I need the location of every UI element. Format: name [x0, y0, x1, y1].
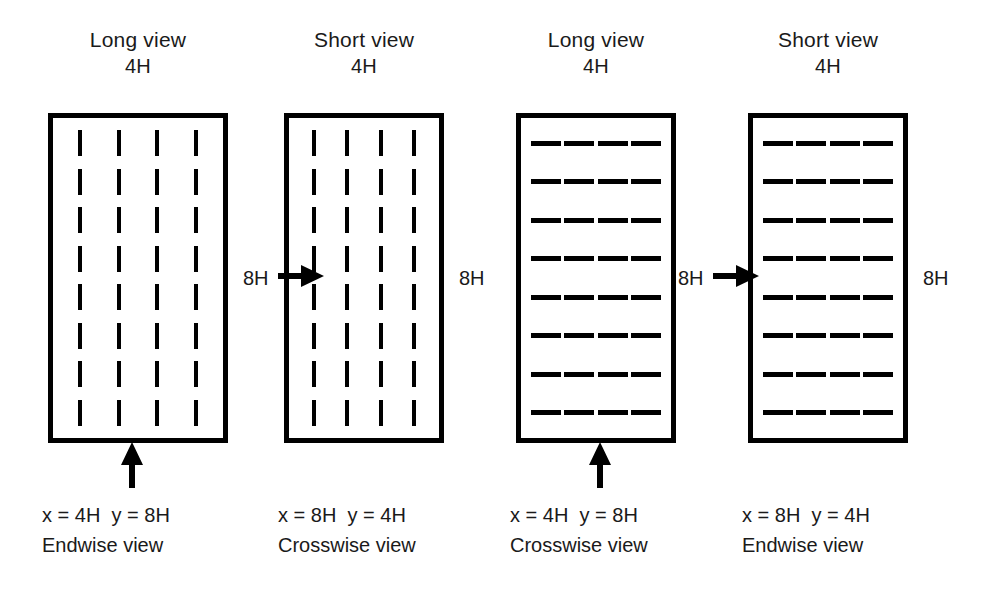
horizontal-dash-icon [796, 179, 826, 184]
dash-cell [331, 355, 365, 394]
dash-cell [297, 124, 331, 163]
vertical-dash-icon [412, 323, 416, 349]
dash-cell [364, 201, 398, 240]
dash-cell [61, 240, 100, 279]
horizontal-dash-icon [863, 256, 893, 261]
horizontal-dash-icon [763, 295, 793, 300]
dash-cell [331, 394, 365, 433]
dash-cell [398, 240, 432, 279]
horizontal-dash-icon [631, 218, 661, 223]
dash-cell [761, 355, 795, 394]
vertical-dash-icon [379, 400, 383, 426]
horizontal-dash-icon [830, 218, 860, 223]
horizontal-dash-icon [598, 295, 628, 300]
horizontal-dash-icon [598, 333, 628, 338]
vertical-dash-icon [117, 207, 121, 233]
horizontal-dash-icon [631, 410, 661, 415]
vertical-dash-icon [78, 207, 82, 233]
dash-cell [795, 240, 829, 279]
dash-cell [795, 355, 829, 394]
dash-cell [398, 317, 432, 356]
vertical-dash-icon [194, 361, 198, 387]
vertical-dash-icon [194, 207, 198, 233]
horizontal-dash-icon [564, 256, 594, 261]
dash-cell [529, 394, 563, 433]
dash-cell [138, 317, 177, 356]
dash-cell [364, 394, 398, 433]
vertical-dash-icon [379, 284, 383, 310]
horizontal-dash-icon [796, 256, 826, 261]
dash-cell [563, 240, 597, 279]
dash-cell [138, 240, 177, 279]
dash-cell [138, 278, 177, 317]
horizontal-dash-icon [564, 179, 594, 184]
horizontal-dash-icon [830, 179, 860, 184]
dash-cell [596, 124, 630, 163]
vertical-dash-icon [412, 169, 416, 195]
dash-cell [563, 355, 597, 394]
horizontal-dash-icon [863, 372, 893, 377]
dash-cell [862, 124, 896, 163]
dash-cell [331, 278, 365, 317]
arrow-right-panel-2 [277, 260, 325, 292]
panel-1-caption-line1: x = 4H y = 8H [42, 504, 170, 526]
panel-3-caption: x = 4H y = 8H Crosswise view [510, 500, 770, 560]
dash-cell [563, 163, 597, 202]
panel-3-dash-grid [521, 118, 671, 438]
dash-cell [297, 163, 331, 202]
horizontal-dash-icon [598, 218, 628, 223]
horizontal-dash-icon [598, 141, 628, 146]
dash-cell [61, 355, 100, 394]
horizontal-dash-icon [531, 372, 561, 377]
dash-cell [138, 394, 177, 433]
panel-4-caption: x = 8H y = 4H Endwise view [742, 500, 992, 560]
dash-cell [862, 317, 896, 356]
horizontal-dash-icon [763, 256, 793, 261]
dash-cell [297, 394, 331, 433]
arrow-up-panel-1 [116, 441, 148, 489]
dash-cell [795, 394, 829, 433]
dash-cell [61, 163, 100, 202]
dash-cell [61, 124, 100, 163]
vertical-dash-icon [155, 400, 159, 426]
vertical-dash-icon [155, 169, 159, 195]
dash-cell [630, 163, 664, 202]
vertical-dash-icon [345, 246, 349, 272]
panel-2-caption-line1: x = 8H y = 4H [278, 504, 406, 526]
horizontal-dash-icon [796, 218, 826, 223]
dash-cell [630, 124, 664, 163]
horizontal-dash-icon [763, 333, 793, 338]
vertical-dash-icon [379, 130, 383, 156]
vertical-dash-icon [312, 361, 316, 387]
horizontal-dash-icon [531, 295, 561, 300]
dash-cell [364, 163, 398, 202]
vertical-dash-icon [78, 246, 82, 272]
panel-2-caption: x = 8H y = 4H Crosswise view [278, 500, 538, 560]
dash-cell [596, 240, 630, 279]
dash-cell [862, 394, 896, 433]
dash-cell [177, 124, 216, 163]
dash-cell [596, 317, 630, 356]
vertical-dash-icon [412, 207, 416, 233]
vertical-dash-icon [155, 284, 159, 310]
dash-cell [100, 240, 139, 279]
vertical-dash-icon [155, 207, 159, 233]
dash-cell [100, 317, 139, 356]
dash-cell [364, 355, 398, 394]
dimension-label-panel2-left: 8H [243, 268, 269, 288]
horizontal-dash-icon [564, 295, 594, 300]
horizontal-dash-icon [598, 410, 628, 415]
vertical-dash-icon [117, 400, 121, 426]
dash-cell [177, 317, 216, 356]
vertical-dash-icon [412, 130, 416, 156]
dash-cell [331, 201, 365, 240]
dash-cell [364, 317, 398, 356]
dash-cell [828, 201, 862, 240]
panel-3: Long view 4H [516, 0, 676, 607]
panel-1: Long view 4H [48, 0, 228, 607]
panel-1-caption: x = 4H y = 8H Endwise view [42, 500, 302, 560]
horizontal-dash-icon [830, 256, 860, 261]
dash-cell [177, 394, 216, 433]
horizontal-dash-icon [830, 333, 860, 338]
vertical-dash-icon [117, 361, 121, 387]
